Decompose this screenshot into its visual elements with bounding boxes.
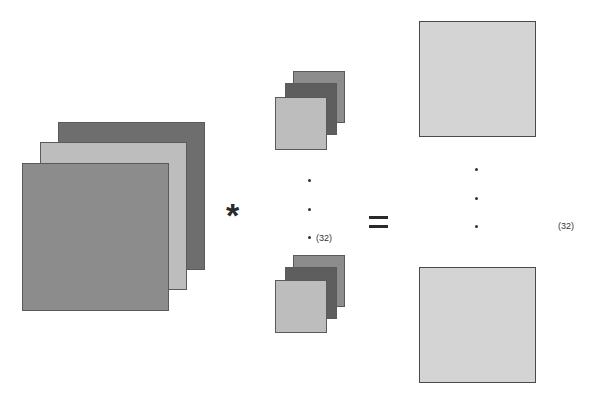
equals-operator: = [369,216,388,229]
filter-1-layer-1 [275,97,327,150]
ellipsis-dot [475,225,478,228]
ellipsis-dot [308,208,311,211]
ellipsis-dot [308,179,311,182]
output-map-32 [419,267,536,383]
convolution-operator: * [226,198,239,232]
ellipsis-dot [475,197,478,200]
output-map-1 [419,21,536,137]
filter-32-layer-1 [275,280,327,333]
output-count-label: (32) [558,221,574,231]
ellipsis-dot [475,168,478,171]
input-channel-1 [22,163,169,311]
filter-count-label: (32) [316,233,332,243]
ellipsis-dot [308,236,311,239]
